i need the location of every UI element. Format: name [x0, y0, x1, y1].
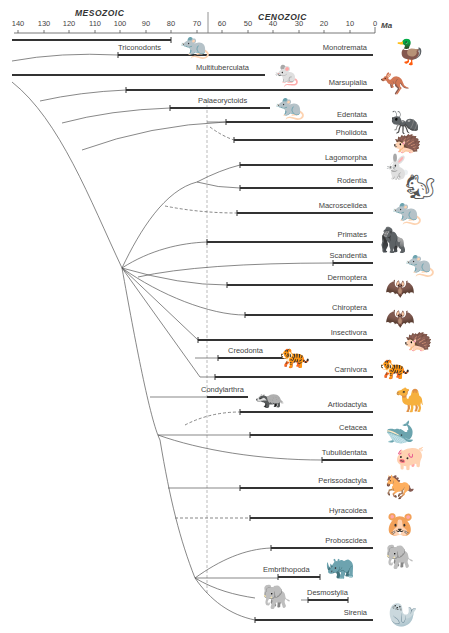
camel-illustration-icon: 🐪	[395, 388, 425, 412]
label-macroscelidea: Macroscelidea	[319, 201, 367, 210]
platypus-illustration-icon: 🦆	[395, 40, 425, 64]
colugo-illustration-icon: 🦇	[385, 276, 415, 300]
mammal-phylogeny-diagram: MESOZOIC CENOZOIC 140 130 120 110 100 90…	[0, 0, 449, 633]
kangaroo-illustration-icon: 🦘	[380, 72, 410, 96]
label-hyracoidea: Hyracoidea	[329, 506, 367, 515]
label-dermoptera: Dermoptera	[327, 273, 367, 282]
triconodont-illustration-icon: 🐀	[180, 34, 210, 58]
label-carnivora: Carnivora	[334, 365, 367, 374]
label-sirenia: Sirenia	[344, 608, 367, 617]
label-perissodactyla: Perissodactyla	[318, 476, 367, 485]
label-palaeoryctoids: Palaeoryctoids	[198, 96, 247, 105]
label-condylarthra: Condylarthra	[201, 385, 244, 394]
multituberculate-illustration-icon: 🐁	[272, 62, 302, 86]
condylarth-illustration-icon: 🦡	[255, 384, 285, 408]
tree-shrew-illustration-icon: 🐀	[405, 252, 435, 276]
label-multituberculata: Multituberculata	[196, 63, 249, 72]
manatee-illustration-icon: 🦭	[388, 603, 418, 627]
label-creodonta: Creodonta	[228, 346, 263, 355]
creodont-illustration-icon: 🐅	[280, 344, 310, 368]
elephant-illustration-icon: 🐘	[385, 545, 415, 569]
label-artiodactyla: Artiodactyla	[328, 400, 367, 409]
aardvark-illustration-icon: 🐖	[395, 446, 425, 470]
desmostylian-illustration-icon: 🐘	[262, 585, 292, 609]
tiger-illustration-icon: 🐅	[380, 355, 410, 379]
label-edentata: Edentata	[337, 110, 367, 119]
hedgehog-illustration-icon: 🦔	[403, 328, 433, 352]
elephant-shrew-illustration-icon: 🐀	[392, 200, 422, 224]
squirrel-illustration-icon: 🐿	[405, 175, 435, 199]
palaeoryctoid-illustration-icon: 🐀	[275, 95, 305, 119]
label-rodentia: Rodentia	[337, 176, 367, 185]
arsinoitherium-illustration-icon: 🦏	[325, 555, 355, 579]
label-lagomorpha: Lagomorpha	[325, 153, 367, 162]
label-scandentia: Scandentia	[329, 251, 367, 260]
hyrax-illustration-icon: 🐹	[385, 512, 415, 536]
label-monotremata: Monotremata	[323, 43, 367, 52]
label-chiroptera: Chiroptera	[332, 303, 367, 312]
gorilla-illustration-icon: 🦍	[378, 228, 408, 252]
label-triconodonts: Triconodonts	[118, 43, 161, 52]
pangolin-illustration-icon: 🦔	[392, 130, 422, 154]
label-pholidota: Pholidota	[336, 128, 367, 137]
label-proboscidea: Proboscidea	[325, 536, 367, 545]
label-marsupialia: Marsupialia	[329, 78, 367, 87]
label-cetacea: Cetacea	[339, 423, 367, 432]
label-tubulidentata: Tubulidentata	[322, 448, 367, 457]
whale-illustration-icon: 🐋	[385, 420, 415, 444]
label-embrithopoda: Embrithopoda	[263, 565, 310, 574]
label-desmostylia: Desmostylia	[307, 588, 348, 597]
horse-illustration-icon: 🐎	[385, 475, 415, 499]
label-insectivora: Insectivora	[331, 328, 367, 337]
label-primates: Primates	[337, 230, 367, 239]
